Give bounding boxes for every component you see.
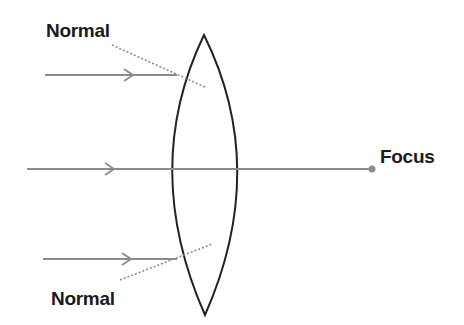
normal-bottom-label: Normal: [51, 288, 115, 309]
lens-ray-diagram: Normal Normal Focus: [0, 0, 464, 325]
focus-dot: [369, 166, 376, 173]
normal-top-label: Normal: [46, 20, 110, 41]
bottom-normal-line: [120, 244, 212, 280]
focus-label: Focus: [380, 146, 434, 167]
